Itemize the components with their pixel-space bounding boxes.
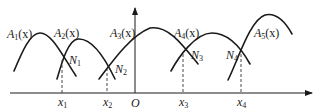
label-n2: N2	[114, 62, 127, 77]
label-n4: N4	[225, 48, 238, 63]
tick-x2: x2	[102, 95, 112, 110]
label-a5: A5(x)	[253, 26, 279, 41]
origin-label: O	[131, 96, 140, 110]
label-a3: A3(x)	[109, 26, 135, 41]
label-a2: A2(x)	[53, 26, 79, 41]
label-a1: A1(x)	[6, 27, 32, 42]
tick-x4: x4	[236, 95, 246, 110]
label-n3: N3	[190, 48, 203, 63]
label-n1: N1	[68, 53, 81, 68]
tick-x1: x1	[57, 95, 67, 110]
diagram-canvas: A1(x) A2(x) A3(x) A4(x) A5(x) N1 N2 N3 N…	[0, 0, 320, 112]
tick-x3: x3	[178, 95, 188, 110]
label-a4: A4(x)	[173, 26, 199, 41]
